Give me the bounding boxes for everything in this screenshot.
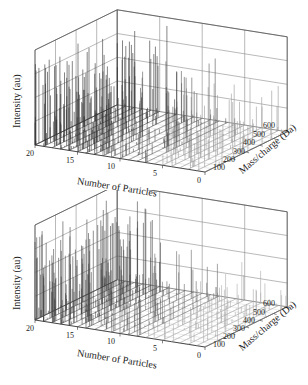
x-tick-15: 15 [66, 332, 74, 340]
y-tick-100: 100 [213, 341, 225, 349]
x-tick-20: 20 [26, 325, 34, 333]
z-axis-title: Intensity (au) [12, 74, 22, 128]
x-tick-15: 15 [66, 157, 74, 165]
chart-top: Intensity (au) Number of Particles Mass/… [0, 0, 308, 190]
x-tick-10: 10 [107, 163, 115, 171]
y-tick-600: 600 [263, 300, 275, 308]
y-tick-200: 200 [223, 333, 235, 341]
chart-top-plot [0, 0, 308, 190]
y-tick-300: 300 [233, 148, 245, 156]
y-tick-500: 500 [253, 309, 265, 317]
y-tick-400: 400 [243, 139, 255, 147]
x-tick-0: 0 [197, 177, 201, 185]
x-tick-5: 5 [153, 170, 157, 178]
y-tick-400: 400 [243, 317, 255, 325]
y-tick-500: 500 [253, 131, 265, 139]
x-tick-5: 5 [153, 345, 157, 353]
z-axis-title: Intensity (au) [12, 256, 22, 310]
y-tick-200: 200 [223, 156, 235, 164]
y-tick-600: 600 [263, 122, 275, 130]
y-tick-300: 300 [233, 325, 245, 333]
chart-bottom: Intensity (au) Number of Particles Mass/… [0, 190, 308, 380]
x-tick-0: 0 [197, 352, 201, 360]
x-tick-10: 10 [107, 338, 115, 346]
y-tick-100: 100 [213, 164, 225, 172]
x-tick-20: 20 [26, 150, 34, 158]
